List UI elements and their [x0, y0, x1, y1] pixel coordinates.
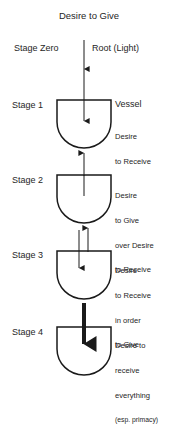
stage-label-4: Stage 4 [12, 328, 43, 338]
stage-3-desc-line: in order [115, 317, 151, 325]
stage-2-desc-line: over Desire [115, 242, 154, 250]
stage-4-description: Desire to receive everything (esp. prima… [115, 326, 158, 428]
diagram-title: Desire to Give [0, 11, 178, 21]
stage-4-desc-line: everything [115, 392, 158, 400]
stage-4-desc-line: Desire to [115, 342, 158, 350]
stage-4-desc-note: (esp. primacy) [115, 416, 158, 423]
stage3-vessel-shape [57, 251, 111, 299]
stage-1-desc-line: Desire [115, 133, 151, 141]
vessel-label: Vessel [115, 100, 142, 110]
header-stage-zero: Stage Zero [14, 44, 59, 54]
stage-label-2: Stage 2 [12, 176, 43, 186]
stage-label-3: Stage 3 [12, 251, 43, 261]
stage-label-1: Stage 1 [12, 101, 43, 111]
stage-3-desc-line: Desire [115, 267, 151, 275]
header-root-light: Root (Light) [92, 44, 139, 54]
stage-1-description: Desire to Receive [115, 117, 151, 183]
stage-4-desc-line: receive [115, 367, 158, 375]
stage-3-desc-line: to Receive [115, 292, 151, 300]
stage-2-desc-line: to Give [115, 217, 154, 225]
stage-2-desc-line: Desire [115, 192, 154, 200]
stage-1-desc-line: to Receive [115, 158, 151, 166]
